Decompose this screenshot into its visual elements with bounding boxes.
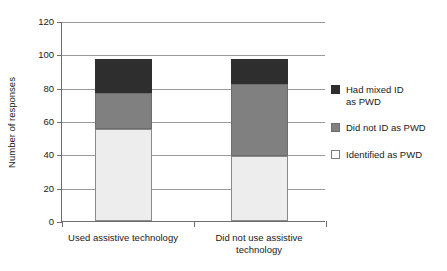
- x-axis-tick-mark: [326, 221, 327, 227]
- bar-segment[interactable]: [231, 156, 288, 221]
- bar-segment[interactable]: [231, 59, 288, 84]
- x-axis-category-line: Used assistive technology: [48, 232, 198, 244]
- bar-stack[interactable]: [231, 21, 288, 221]
- bar-segment[interactable]: [231, 84, 288, 156]
- bar-stack[interactable]: [95, 21, 152, 221]
- bar-segment[interactable]: [95, 93, 152, 130]
- chart-legend: Had mixed IDas PWDDid not ID as PWDIdent…: [331, 84, 443, 175]
- y-axis-tick-label: 20: [43, 184, 54, 194]
- x-axis-tick-mark: [62, 221, 63, 227]
- legend-item-label: Had mixed IDas PWD: [346, 84, 404, 107]
- x-axis-category-label: Used assistive technology: [48, 232, 198, 244]
- legend-swatch-icon: [331, 150, 340, 159]
- y-axis-tick-mark: [57, 155, 62, 156]
- legend-item[interactable]: Had mixed IDas PWD: [331, 84, 443, 107]
- bar-segment[interactable]: [95, 129, 152, 221]
- legend-item-label: Did not ID as PWD: [346, 122, 426, 134]
- y-axis-tick-label: 100: [38, 51, 54, 61]
- y-axis-tick-mark: [57, 55, 62, 56]
- y-axis-tick-label: 80: [43, 84, 54, 94]
- legend-item[interactable]: Did not ID as PWD: [331, 122, 443, 134]
- y-axis-tick-mark: [57, 189, 62, 190]
- y-axis-tick-mark: [57, 122, 62, 123]
- x-axis-category-line: technology: [184, 244, 334, 256]
- y-axis-tick-label: 40: [43, 151, 54, 161]
- bar-segment[interactable]: [95, 59, 152, 92]
- y-axis-tick-mark: [57, 89, 62, 90]
- legend-swatch-icon: [331, 85, 340, 94]
- x-axis-category-line: Did not use assistive: [184, 232, 334, 244]
- y-axis-tick-mark: [57, 22, 62, 23]
- y-axis-tick-label: 0: [49, 217, 54, 227]
- legend-item[interactable]: Identified as PWD: [331, 149, 443, 161]
- x-axis-tick-mark: [194, 221, 195, 227]
- plot-area: 020406080100120: [61, 22, 325, 222]
- legend-item-label: Identified as PWD: [346, 149, 422, 161]
- y-axis-tick-label: 120: [38, 17, 54, 27]
- y-axis-title-text: Number of responses: [6, 77, 17, 168]
- y-axis-tick-label: 60: [43, 117, 54, 127]
- y-axis-title: Number of responses: [2, 22, 20, 222]
- x-axis-category-label: Did not use assistivetechnology: [184, 232, 334, 256]
- stacked-bar-chart: Number of responses 020406080100120 Used…: [0, 0, 447, 271]
- legend-swatch-icon: [331, 123, 340, 132]
